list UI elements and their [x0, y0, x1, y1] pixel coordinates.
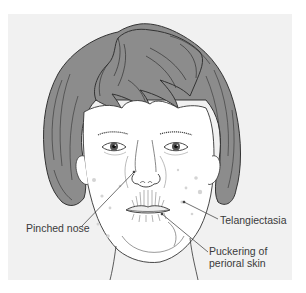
label-puckering-perioral-skin: Puckering of perioral skin	[209, 245, 267, 269]
figure: Pinched nose Telangiectasia Puckering of…	[0, 0, 306, 293]
label-puckering-line2: perioral skin	[209, 257, 267, 269]
label-telangiectasia: Telangiectasia	[220, 214, 287, 226]
label-puckering-line1: Puckering of	[209, 245, 267, 257]
label-pinched-nose: Pinched nose	[26, 222, 90, 234]
